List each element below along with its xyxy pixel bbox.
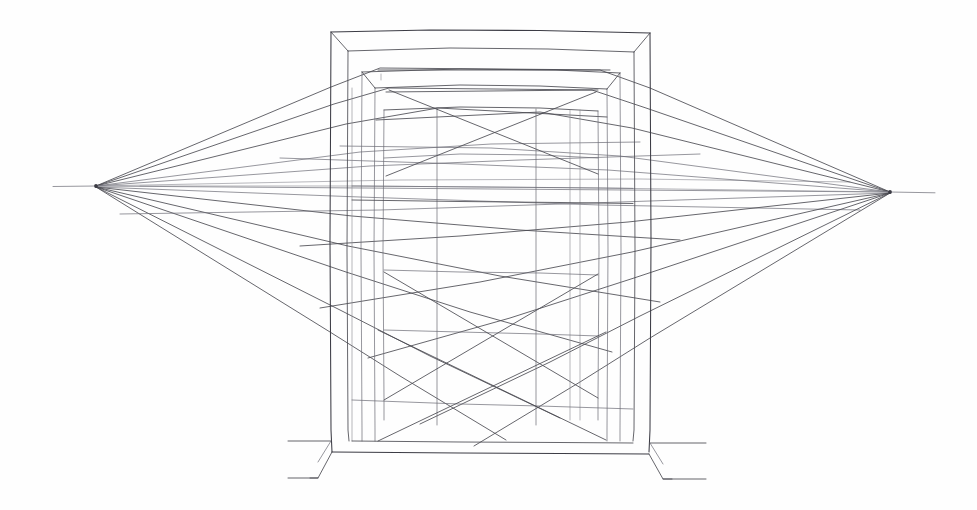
outer-frame-top-edge: [331, 30, 650, 33]
perspective-drawing: [0, 0, 977, 510]
ray-r-7: [120, 193, 890, 214]
right-vanishing-point: [888, 190, 892, 194]
reveal-corner-right: [607, 73, 620, 89]
ray-l-8: [96, 187, 680, 240]
ray-l-10: [96, 187, 612, 352]
panel-rail-6: [352, 400, 633, 409]
left-vanishing-ray-fan: [96, 68, 860, 440]
door-inner-panel: [352, 88, 599, 441]
jamb-left-outer: [361, 72, 362, 441]
ray-r-8: [300, 193, 890, 246]
threshold-inner-line: [352, 441, 633, 443]
cross-upper-b: [386, 92, 596, 176]
ray-l-12: [96, 187, 506, 440]
outer-frame-right-edge: [649, 33, 651, 452]
jamb-right-inner: [607, 89, 608, 441]
ray-r-2: [386, 90, 890, 192]
panel-left-edge: [383, 110, 384, 420]
jamb-left-inner: [374, 88, 375, 441]
reveal-corner-left: [362, 72, 375, 88]
wall-corner-right: [650, 443, 663, 464]
threshold-front-line: [332, 452, 649, 454]
panel-rails: [352, 154, 633, 409]
step-left-return: [310, 452, 332, 478]
panel-rail-1: [384, 154, 598, 158]
left-vanishing-point: [94, 184, 98, 188]
cross-lower-a: [378, 330, 606, 440]
outer-frame-bevel-top: [348, 48, 634, 52]
panel-rail-3: [352, 200, 633, 204]
ray-l-11: [96, 187, 560, 418]
ray-r-10: [368, 193, 890, 358]
ray-r-5: [280, 158, 890, 192]
ray-r-4: [340, 146, 890, 192]
wall-corner-left: [318, 441, 331, 462]
outer-frame-bevel-right: [633, 52, 635, 441]
drawing-canvas: Two-Point Perspective Study: Doorway gra…: [0, 0, 977, 510]
threshold-and-step: [288, 441, 706, 479]
step-right-return: [649, 454, 672, 479]
bevel-corner-left: [331, 32, 348, 51]
cross-mid-b: [384, 274, 598, 400]
bevel-corner-right: [634, 33, 650, 52]
jamb-right-outer: [620, 73, 621, 441]
right-vanishing-ray-fan: [120, 70, 890, 446]
